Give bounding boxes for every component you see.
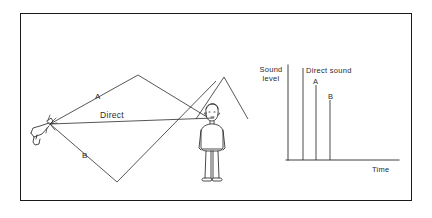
reflection-path-a <box>50 75 207 124</box>
chart-label-direct-sound: Direct sound <box>306 66 352 75</box>
pistol-icon <box>31 115 57 145</box>
chart-label-b: B <box>328 92 333 101</box>
direct-sound-path <box>50 118 214 124</box>
reflector-triangle-right <box>196 77 248 119</box>
chart-x-axis-label: Time <box>372 165 390 174</box>
chart-y-axis-label-line2: level <box>255 75 287 84</box>
label-direct-sound-path: Direct <box>100 110 124 120</box>
standing-person-icon <box>199 104 225 181</box>
figure-root: A B Direct Sound level Time Direct sound… <box>0 0 432 218</box>
reflection-path-b <box>50 81 216 182</box>
label-path-b: B <box>82 151 88 160</box>
label-path-a: A <box>95 92 101 101</box>
figure-drawing <box>0 0 432 218</box>
chart-y-axis-label: Sound level <box>255 66 287 83</box>
chart-label-a: A <box>313 77 318 86</box>
